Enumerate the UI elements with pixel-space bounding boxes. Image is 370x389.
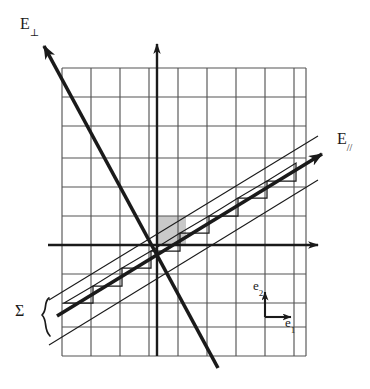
figure-canvas [0, 0, 370, 389]
basis-vectors [265, 292, 291, 317]
sigma-brace [42, 298, 50, 336]
label-basis-e1-sub: 1 [291, 325, 296, 335]
label-basis-e1-base: e [285, 315, 291, 330]
coordinate-axes [48, 44, 318, 356]
label-e-perpendicular: E⊥ [20, 16, 39, 35]
label-basis-e2-base: e [253, 278, 259, 293]
lattice-grid [62, 68, 306, 356]
label-e-perpendicular-sub: ⊥ [30, 27, 39, 38]
strip-boundary-lower [49, 180, 318, 345]
label-e-perpendicular-base: E [20, 15, 30, 32]
label-basis-e1: e1 [285, 316, 295, 333]
label-e-parallel-base: E [337, 130, 347, 147]
strip-boundary-upper [49, 136, 318, 300]
label-e-parallel-sub: // [347, 142, 353, 153]
e-perpendicular-axis [44, 46, 218, 368]
label-sigma: Σ [15, 303, 24, 319]
label-e-parallel: E// [337, 131, 352, 150]
label-basis-e2: e2 [253, 279, 263, 296]
e-parallel-axis [57, 154, 322, 316]
quasicrystal-projection-figure: E⊥ E// e1 e2 Σ [0, 0, 370, 389]
label-basis-e2-sub: 2 [259, 288, 264, 298]
